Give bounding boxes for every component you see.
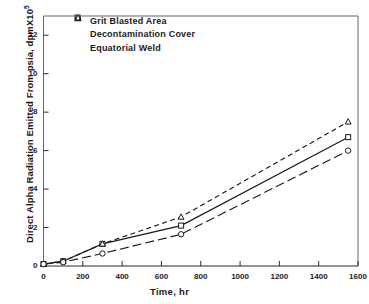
x-tick-label: 1000 — [220, 272, 260, 281]
y-tick-label: 12 — [20, 30, 38, 39]
data-point-circle — [100, 251, 105, 256]
y-tick-label: 2 — [20, 223, 38, 232]
x-tick-label: 0 — [24, 272, 64, 281]
x-tick-label: 1200 — [259, 272, 299, 281]
x-tick-label: 1400 — [299, 272, 339, 281]
alpha-radiation-chart: Direct Alpha Radiation Emitted From psia… — [0, 0, 369, 304]
data-point-circle — [60, 259, 65, 264]
x-tick-label: 1600 — [338, 272, 369, 281]
plot-frame — [44, 16, 359, 266]
data-point-circle — [178, 232, 183, 237]
x-tick-label: 600 — [141, 272, 181, 281]
y-tick-label: 8 — [20, 107, 38, 116]
series-line-0 — [44, 137, 349, 264]
data-point-circle — [41, 261, 46, 266]
series-line-2 — [44, 151, 349, 264]
x-tick-label: 400 — [102, 272, 142, 281]
x-tick-label: 800 — [181, 272, 221, 281]
data-point-triangle — [345, 119, 351, 124]
y-tick-label: 10 — [20, 69, 38, 78]
data-point-square — [346, 135, 351, 140]
x-tick-label: 200 — [63, 272, 103, 281]
y-origin-label: 0 — [20, 261, 38, 270]
series-line-1 — [44, 122, 349, 264]
data-point-triangle — [178, 214, 184, 219]
data-point-circle — [345, 148, 350, 153]
data-point-square — [179, 223, 184, 228]
plot-area — [0, 0, 369, 304]
y-tick-label: 6 — [20, 146, 38, 155]
y-tick-label: 4 — [20, 184, 38, 193]
